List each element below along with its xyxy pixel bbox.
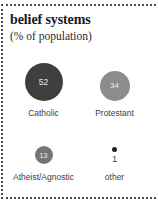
bubble-cell-atheist-agnostic: 13 Atheist/Agnostic xyxy=(8,118,79,182)
bubble-atheist-agnostic: 13 xyxy=(35,146,53,164)
bubble-value-protestant: 34 xyxy=(110,82,119,90)
bubble-cell-protestant: 34 Protestant xyxy=(79,56,150,118)
bubble-value-other: 1 xyxy=(112,154,117,164)
bubble-label-atheist-agnostic: Atheist/Agnostic xyxy=(13,172,74,182)
bubble-cell-other: 1 other xyxy=(79,118,150,182)
bubble-value-atheist-agnostic: 13 xyxy=(40,152,48,159)
bubble-catholic: 52 xyxy=(25,63,63,101)
chart-subtitle: (% of population) xyxy=(10,29,152,43)
bubble-protestant: 34 xyxy=(100,71,130,101)
bubble-label-other: other xyxy=(105,172,124,182)
bubble-slot: 34 xyxy=(100,59,130,101)
bubble-chart: 52 Catholic 34 Protestant 13 Atheist/Agn… xyxy=(8,56,150,182)
bubble-cell-catholic: 52 Catholic xyxy=(8,56,79,118)
belief-systems-card: belief systems (% of population) 52 Cath… xyxy=(0,0,158,203)
bubble-slot: 13 xyxy=(35,122,53,164)
card-header: belief systems (% of population) xyxy=(10,12,152,43)
dotted-border-bottom xyxy=(1,197,158,199)
dotted-border-top xyxy=(1,4,158,6)
page-title: belief systems xyxy=(10,12,152,27)
bubble-label-catholic: Catholic xyxy=(28,108,59,118)
bubble-label-protestant: Protestant xyxy=(95,108,134,118)
bubble-other xyxy=(112,147,117,152)
dotted-border-left xyxy=(1,4,3,199)
bubble-slot: 52 xyxy=(25,59,63,101)
bubble-value-catholic: 52 xyxy=(39,78,48,87)
bubble-slot xyxy=(112,118,117,152)
